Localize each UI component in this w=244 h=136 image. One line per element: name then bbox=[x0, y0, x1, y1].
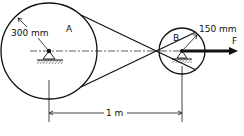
belt-pulley-diagram: 300 mm A 150 mm B F 1 m bbox=[0, 0, 244, 136]
force-arrow bbox=[184, 47, 238, 55]
radius-label-b: 150 mm bbox=[199, 24, 237, 34]
pulley-label-a: A bbox=[66, 24, 73, 34]
center-distance-label: 1 m bbox=[106, 108, 123, 118]
force-label: F bbox=[232, 36, 237, 46]
pulley-label-b: B bbox=[173, 33, 179, 43]
radius-label-a: 300 mm bbox=[11, 28, 49, 38]
